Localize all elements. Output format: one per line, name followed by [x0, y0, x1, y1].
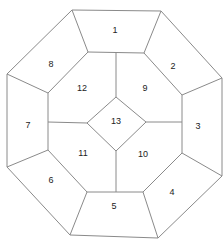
region-label-1: 1: [112, 25, 117, 35]
region-label-13: 13: [111, 116, 121, 126]
region-label-9: 9: [142, 83, 147, 93]
region-label-5: 5: [111, 201, 116, 211]
region-label-2: 2: [170, 61, 175, 71]
region-label-10: 10: [138, 149, 148, 159]
region-labels: 12345678910111213: [25, 25, 200, 211]
region-label-7: 7: [25, 120, 30, 130]
region-label-11: 11: [78, 148, 87, 158]
region-label-8: 8: [48, 59, 53, 69]
region-label-4: 4: [169, 187, 174, 197]
region-label-3: 3: [195, 121, 200, 131]
region-label-6: 6: [48, 175, 53, 185]
octagon-diagram: 12345678910111213: [0, 0, 224, 243]
region-label-12: 12: [77, 83, 87, 93]
